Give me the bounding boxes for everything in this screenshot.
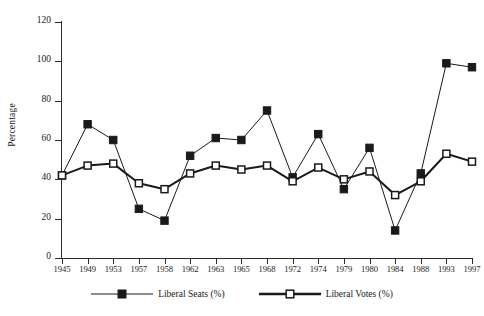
x-axis-tick-label: 1997 (464, 264, 481, 274)
x-axis-tick-label: 1949 (79, 264, 96, 274)
data-point-marker (366, 168, 373, 175)
data-point-marker (187, 170, 194, 177)
data-point-marker (315, 130, 322, 137)
x-axis-tick-label: 1980 (361, 264, 378, 274)
x-axis-tick-label: 1984 (387, 264, 404, 274)
data-point-marker (417, 178, 424, 185)
y-axis-tick-label: 20 (42, 212, 52, 222)
data-point-marker (366, 144, 373, 151)
legend-item-label: Liberal Votes (%) (326, 289, 393, 299)
y-axis-tick-label: 80 (42, 94, 52, 104)
data-point-marker (135, 180, 142, 187)
x-axis-tick-label: 1972 (284, 264, 301, 274)
legend-item: Liberal Seats (%) (91, 288, 224, 300)
x-axis-tick-label: 1953 (105, 264, 122, 274)
y-axis-title-label: Percentage (7, 103, 17, 147)
data-point-marker (161, 217, 168, 224)
plot-area: 020406080100120 (62, 22, 472, 258)
x-axis-tick-label: 1945 (54, 264, 71, 274)
y-axis-tick: 120 (55, 22, 62, 23)
data-point-marker (212, 162, 219, 169)
data-point-marker (443, 150, 450, 157)
data-point-marker (238, 136, 245, 143)
data-point-marker (238, 166, 245, 173)
data-point-marker (59, 172, 66, 179)
data-point-marker (212, 134, 219, 141)
x-axis-tick-label: 1988 (412, 264, 429, 274)
data-point-marker (161, 186, 168, 193)
series-layer (62, 22, 472, 258)
data-point-marker (340, 185, 347, 192)
data-point-marker (84, 162, 91, 169)
data-point-marker (391, 227, 398, 234)
y-axis-tick: 20 (55, 219, 62, 220)
y-axis-tick-label: 0 (46, 251, 51, 261)
y-axis-tick-label: 120 (37, 15, 51, 25)
data-point-marker (264, 162, 271, 169)
legend-filled-square-icon (91, 288, 153, 300)
data-point-marker (186, 152, 193, 159)
y-axis-tick-label: 100 (37, 54, 51, 64)
x-axis-tick-label: 1979 (335, 264, 352, 274)
y-axis-tick: 40 (55, 179, 62, 180)
x-axis-tick-label: 1993 (438, 264, 455, 274)
legend-item: Liberal Votes (%) (259, 288, 393, 300)
data-point-marker (110, 136, 117, 143)
x-axis-tick-label: 1974 (310, 264, 327, 274)
series-line (62, 154, 472, 195)
data-point-marker (315, 164, 322, 171)
x-axis-tick-label: 1962 (182, 264, 199, 274)
y-axis-title: Percentage (2, 0, 22, 250)
data-point-marker (417, 170, 424, 177)
x-axis-tick-label: 1965 (233, 264, 250, 274)
legend-item-label: Liberal Seats (%) (158, 289, 224, 299)
data-point-marker (340, 176, 347, 183)
data-point-marker (469, 158, 476, 165)
y-axis-tick: 0 (55, 258, 62, 259)
series-line (62, 63, 472, 230)
data-point-marker (392, 192, 399, 199)
data-point-marker (110, 160, 117, 167)
legend-open-square-icon (259, 288, 321, 300)
x-axis-tick-label: 1958 (156, 264, 173, 274)
x-axis-tick-label: 1957 (130, 264, 147, 274)
data-point-marker (289, 178, 296, 185)
y-axis-tick-label: 40 (42, 172, 52, 182)
data-point-marker (135, 205, 142, 212)
data-point-marker (443, 60, 450, 67)
data-point-marker (263, 107, 270, 114)
chart-figure: Percentage 020406080100120 1945194919531… (0, 0, 484, 316)
data-point-marker (84, 121, 91, 128)
x-axis-tick-label: 1968 (259, 264, 276, 274)
data-point-marker (468, 64, 475, 71)
y-axis-tick: 80 (55, 101, 62, 102)
y-axis-tick: 100 (55, 61, 62, 62)
x-axis-tick-label: 1963 (207, 264, 224, 274)
chart-legend: Liberal Seats (%)Liberal Votes (%) (0, 288, 484, 300)
y-axis-tick: 60 (55, 140, 62, 141)
y-axis-tick-label: 60 (42, 133, 52, 143)
